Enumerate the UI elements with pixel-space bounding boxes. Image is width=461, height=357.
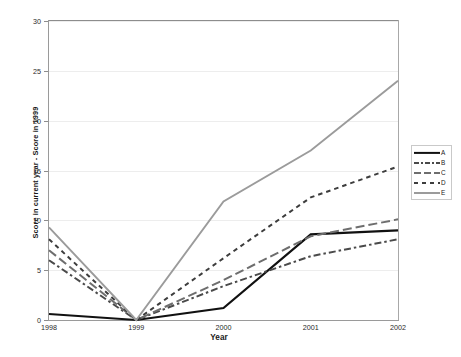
legend-label: D — [440, 180, 446, 186]
x-tick-label: 2001 — [289, 323, 333, 332]
legend-item-e[interactable]: E — [414, 188, 450, 198]
legend-line-icon — [414, 192, 440, 194]
legend-swatch-c — [414, 169, 440, 178]
legend-label: C — [440, 170, 446, 176]
legend-swatch-e — [414, 189, 440, 198]
series-line-e — [49, 81, 398, 320]
legend-swatch-a — [414, 149, 440, 158]
legend-line-icon — [414, 152, 440, 154]
legend-label: E — [440, 190, 445, 196]
legend-swatch-d — [414, 179, 440, 188]
x-tick-label: 2002 — [376, 323, 420, 332]
legend-item-a[interactable]: A — [414, 148, 450, 158]
x-tick-label: 1998 — [27, 323, 71, 332]
series-line-a — [49, 230, 398, 320]
legend-line-icon — [414, 172, 440, 174]
series-line-c — [49, 219, 398, 320]
legend-line-icon — [414, 162, 440, 164]
legend-label: B — [440, 160, 445, 166]
legend-line-icon — [414, 182, 440, 184]
legend-item-b[interactable]: B — [414, 158, 450, 168]
chart-series-layer — [0, 0, 461, 357]
x-tick-label: 2000 — [202, 323, 246, 332]
legend-label: A — [440, 150, 445, 156]
figure-container: Score in current year - Score in 1999 05… — [0, 0, 461, 357]
legend-item-c[interactable]: C — [414, 168, 450, 178]
legend-swatch-b — [414, 159, 440, 168]
chart-legend[interactable]: ABCDE — [411, 145, 452, 200]
legend-item-d[interactable]: D — [414, 178, 450, 188]
x-axis-title: Year — [36, 333, 402, 342]
x-tick-label: 1999 — [114, 323, 158, 332]
